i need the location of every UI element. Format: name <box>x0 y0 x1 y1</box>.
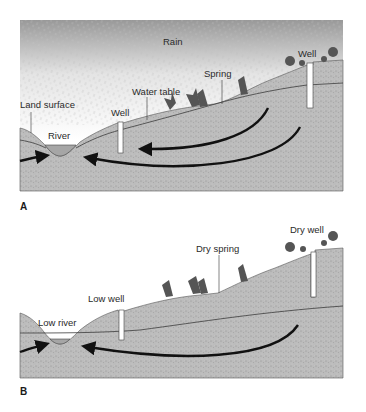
panel-a: Rain Land surface River Well Water table… <box>20 20 343 212</box>
tree-icon <box>328 47 338 57</box>
well-high-shaft <box>307 63 313 108</box>
label-spring: Spring <box>204 68 231 79</box>
panel-b: Low river Low well Dry spring Dry well B <box>20 224 343 397</box>
low-well-shaft <box>119 310 124 340</box>
label-low-well: Low well <box>88 293 124 304</box>
tree-icon <box>321 56 327 62</box>
label-rain: Rain <box>163 36 183 47</box>
label-dry-well: Dry well <box>290 224 324 235</box>
label-well-low: Well <box>111 107 129 118</box>
label-water-table: Water table <box>132 86 180 97</box>
label-land-surface: Land surface <box>20 99 75 110</box>
panel-letter-a: A <box>20 201 27 212</box>
tree-icon <box>285 242 295 252</box>
dry-well-shaft <box>311 252 316 297</box>
label-low-river: Low river <box>38 317 77 328</box>
groundwater-diagram: Rain Land surface River Well Water table… <box>0 0 366 412</box>
ground-b <box>20 248 343 378</box>
tree-icon <box>328 231 338 241</box>
label-well-high: Well <box>298 48 316 59</box>
label-river: River <box>48 130 70 141</box>
tree-icon <box>321 240 327 246</box>
tree-icon <box>299 60 305 66</box>
tree-icon <box>300 246 306 252</box>
panel-letter-b: B <box>20 386 27 397</box>
tree-icon <box>238 264 248 282</box>
label-dry-spring: Dry spring <box>196 243 239 254</box>
well-low-shaft <box>118 122 123 153</box>
tree-icon <box>162 280 173 297</box>
tree-icon <box>285 56 295 66</box>
